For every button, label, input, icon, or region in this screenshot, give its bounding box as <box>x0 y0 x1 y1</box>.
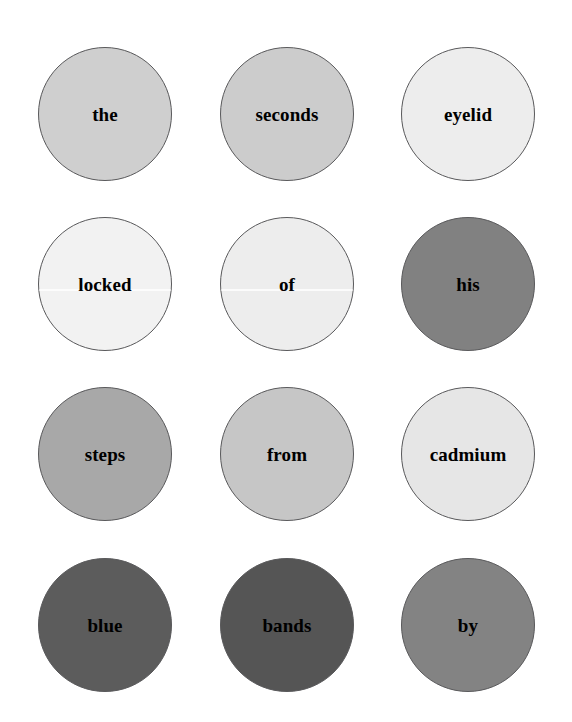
word-bubble-blue[interactable]: blue <box>38 558 172 692</box>
bubble-cell: blue <box>38 558 172 692</box>
bubble-label: from <box>267 445 307 464</box>
bubble-cell: bands <box>220 558 354 692</box>
word-bubble-from[interactable]: from <box>220 387 354 521</box>
bubble-label: locked <box>78 275 131 294</box>
bubble-label: bands <box>262 616 311 635</box>
bubble-cell: the <box>38 47 172 181</box>
word-bubble-his[interactable]: his <box>401 217 535 351</box>
bubble-cell: of <box>220 217 354 351</box>
word-bubble-locked[interactable]: locked <box>38 217 172 351</box>
bubble-cell: seconds <box>220 47 354 181</box>
bubble-label: eyelid <box>444 105 492 124</box>
bubble-label: steps <box>85 445 126 464</box>
bubble-label: his <box>456 275 480 294</box>
bubble-grid: the seconds eyelid locked of his <box>38 47 535 692</box>
word-bubble-steps[interactable]: steps <box>38 387 172 521</box>
bubble-cell: eyelid <box>401 47 535 181</box>
word-bubble-by[interactable]: by <box>401 558 535 692</box>
word-bubble-seconds[interactable]: seconds <box>220 47 354 181</box>
word-bubble-of[interactable]: of <box>220 217 354 351</box>
bubble-cell: by <box>401 558 535 692</box>
bubble-label: cadmium <box>430 445 507 464</box>
bubble-label: seconds <box>256 105 319 124</box>
bubble-cell: steps <box>38 387 172 521</box>
bubble-cell: cadmium <box>401 387 535 521</box>
bubble-label: by <box>458 616 478 635</box>
word-bubble-canvas: the seconds eyelid locked of his <box>0 0 572 722</box>
bubble-cell: locked <box>38 217 172 351</box>
bubble-label: blue <box>87 616 122 635</box>
bubble-cell: from <box>220 387 354 521</box>
word-bubble-eyelid[interactable]: eyelid <box>401 47 535 181</box>
word-bubble-the[interactable]: the <box>38 47 172 181</box>
word-bubble-cadmium[interactable]: cadmium <box>401 387 535 521</box>
bubble-cell: his <box>401 217 535 351</box>
bubble-label: the <box>92 105 118 124</box>
bubble-label: of <box>279 275 295 294</box>
word-bubble-bands[interactable]: bands <box>220 558 354 692</box>
